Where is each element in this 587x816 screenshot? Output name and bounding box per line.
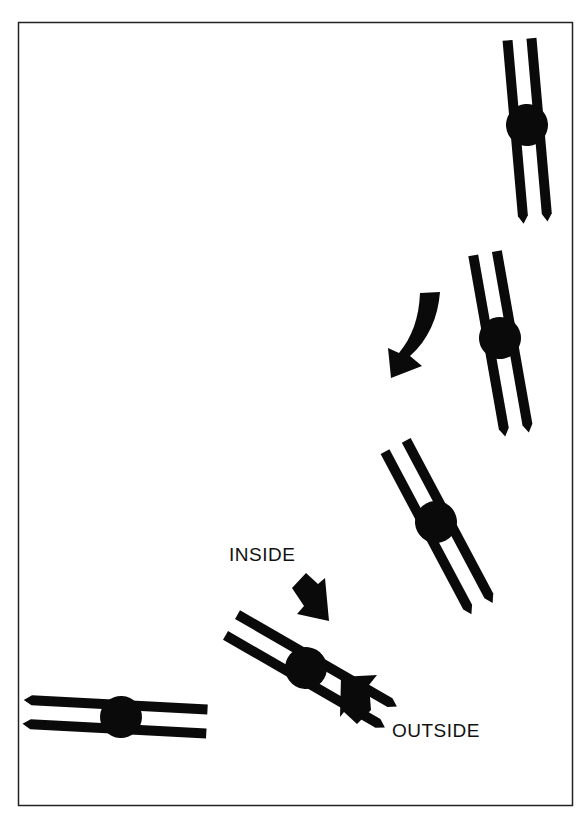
inside-label: INSIDE (229, 544, 295, 565)
direction-arrow-icon (388, 292, 440, 378)
blade-pair-3 (377, 436, 500, 618)
blade-pair-1 (499, 37, 557, 224)
blade-pair-2 (464, 250, 537, 438)
inside-arrow-icon (292, 573, 329, 621)
blade-pair-5 (22, 691, 208, 743)
blade-pair-4 (221, 607, 401, 735)
outside-label: OUTSIDE (392, 720, 480, 741)
diagram-canvas: INSIDE OUTSIDE (0, 0, 587, 816)
diagram-border (19, 23, 573, 806)
